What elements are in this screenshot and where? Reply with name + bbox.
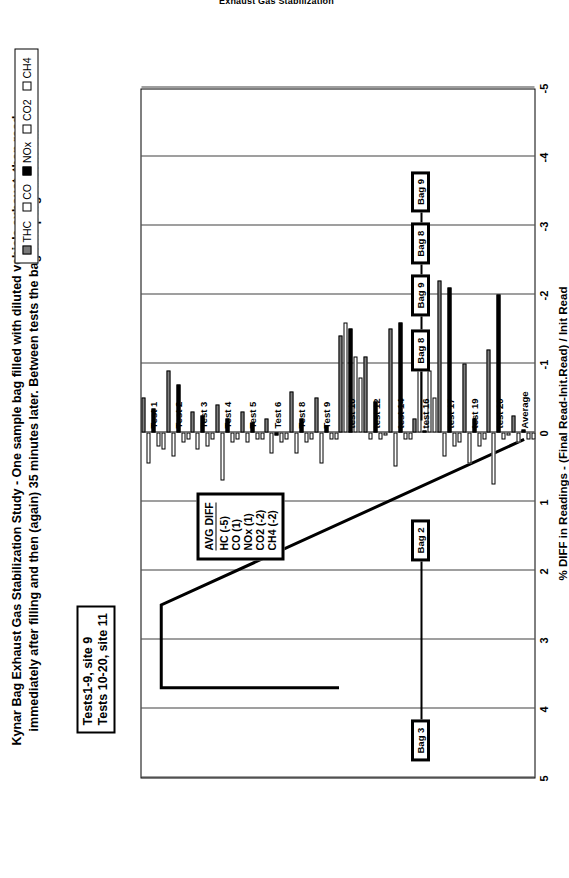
bar-ch4 xyxy=(284,432,288,439)
chart-row: Test 1 xyxy=(141,89,166,777)
bar-co2 xyxy=(279,432,283,442)
bar-co2 xyxy=(156,432,160,446)
avg-diff-co: CO (1) xyxy=(229,502,241,550)
axis-tick-2: 2 xyxy=(537,568,549,574)
bag-annotation-track: Bag 3Bag 2Bag 8Bag 9Bag 8Bag 9 xyxy=(360,88,510,778)
bar-ch4 xyxy=(235,432,239,439)
category-label: Average xyxy=(518,391,529,428)
avg-diff-header: AVG DIFF xyxy=(202,502,216,550)
legend-swatch-co2 xyxy=(22,124,31,133)
legend-label-co2: CO2 xyxy=(20,99,32,121)
avg-diff-callout: AVG DIFF HC (-5) CO (1) NOx (1) CO2 (-2)… xyxy=(196,492,284,560)
bar-thc xyxy=(314,398,318,433)
bag-label-box: Bag 8 xyxy=(411,329,430,371)
bag-label-box: Bag 9 xyxy=(411,274,430,316)
bag-label-box: Bag 8 xyxy=(411,222,430,264)
bar-nox xyxy=(274,432,278,435)
chart-row: Test 3 xyxy=(190,89,215,777)
chart-legend: THC CO NOx CO2 CH4 xyxy=(14,48,38,263)
avg-diff-nox: NOx (1) xyxy=(241,502,253,550)
legend-item-thc: THC xyxy=(20,220,32,254)
bar-co2 xyxy=(304,432,308,442)
value-axis-title: % DIFF in Readings - (Final Read-Init.Re… xyxy=(556,88,568,778)
axis-tick--4: -4 xyxy=(537,152,549,162)
site-note-2: Tests 10-20, site 11 xyxy=(95,613,110,725)
bag-label-box: Bag 3 xyxy=(411,719,430,761)
legend-swatch-ch4 xyxy=(22,81,31,90)
axis-tick-0: 0 xyxy=(537,430,549,436)
category-label: Test 5 xyxy=(246,401,257,428)
axis-tick-4: 4 xyxy=(537,706,549,712)
legend-label-thc: THC xyxy=(20,220,32,242)
chart-row: Test 8 xyxy=(289,89,314,777)
bag-label-box: Bag 2 xyxy=(411,519,430,561)
bag-label-box: Bag 9 xyxy=(411,171,430,213)
bar-co xyxy=(146,432,150,463)
bar-co2 xyxy=(329,432,333,439)
axis-tick--2: -2 xyxy=(537,290,549,300)
bar-ch4 xyxy=(210,432,214,439)
category-label: Test 1 xyxy=(147,401,158,428)
category-label: Test 4 xyxy=(221,401,232,428)
bar-co xyxy=(220,432,224,480)
bar-co xyxy=(516,432,520,442)
legend-swatch-nox xyxy=(22,166,31,175)
bag-connector-line xyxy=(420,540,422,740)
bar-co2 xyxy=(526,432,530,439)
axis-tick--5: -5 xyxy=(537,83,549,93)
bag-connector-line xyxy=(420,192,422,351)
avg-diff-ch4: CH4 (-2) xyxy=(265,502,277,550)
bar-co2 xyxy=(205,432,209,446)
bar-co xyxy=(195,432,199,449)
category-label: Test 2 xyxy=(172,401,183,428)
bar-ch4 xyxy=(334,432,338,439)
legend-item-nox: NOx xyxy=(20,142,32,175)
bar-thc xyxy=(511,415,515,432)
avg-diff-hc: HC (-5) xyxy=(217,502,229,550)
bar-ch4 xyxy=(186,432,190,439)
bar-co2 xyxy=(230,432,234,442)
bar-ch4 xyxy=(161,432,165,449)
bar-co xyxy=(319,432,323,463)
category-label: Test 9 xyxy=(320,401,331,428)
axis-tick-5: 5 xyxy=(537,775,549,781)
gridline--5 xyxy=(141,86,534,87)
chart-row: Test 2 xyxy=(166,89,191,777)
bar-thc xyxy=(240,411,244,432)
axis-tick--1: -1 xyxy=(537,359,549,369)
bar-ch4 xyxy=(260,432,264,439)
legend-swatch-co xyxy=(22,202,31,211)
bar-thc xyxy=(141,398,145,433)
bar-thc xyxy=(338,335,342,432)
chart-row: Test 6 xyxy=(264,89,289,777)
bar-ch4 xyxy=(309,432,313,439)
bar-co xyxy=(245,432,249,442)
axis-tick-1: 1 xyxy=(537,499,549,505)
chart-row: Test 4 xyxy=(215,89,240,777)
axis-tick-3: 3 xyxy=(537,637,549,643)
site-note-1: Tests1-9, site 9 xyxy=(80,613,95,725)
bar-co2 xyxy=(181,432,185,442)
chart-row: Test 5 xyxy=(240,89,265,777)
axis-tick--3: -3 xyxy=(537,221,549,231)
legend-item-co: CO xyxy=(20,184,32,212)
chart-row: Average xyxy=(511,89,536,777)
chart-row: Test 9 xyxy=(314,89,339,777)
category-label: Test 3 xyxy=(197,401,208,428)
category-label: test 10 xyxy=(345,398,356,428)
category-label: Test 6 xyxy=(271,401,282,428)
legend-item-ch4: CH4 xyxy=(20,57,32,90)
bar-co xyxy=(269,432,273,453)
bar-co2 xyxy=(255,432,259,439)
bar-nox xyxy=(521,429,525,432)
site-notes-box: Tests1-9, site 9 Tests 10-20, site 11 xyxy=(76,605,115,733)
bar-thc xyxy=(289,391,293,432)
avg-diff-co2: CO2 (-2) xyxy=(253,502,265,550)
legend-label-co: CO xyxy=(20,184,32,200)
legend-label-ch4: CH4 xyxy=(20,57,32,78)
chart-row: test 10 xyxy=(339,89,364,777)
legend-swatch-thc xyxy=(22,245,31,254)
bar-thc xyxy=(264,418,268,432)
legend-label-nox: NOx xyxy=(20,142,32,163)
